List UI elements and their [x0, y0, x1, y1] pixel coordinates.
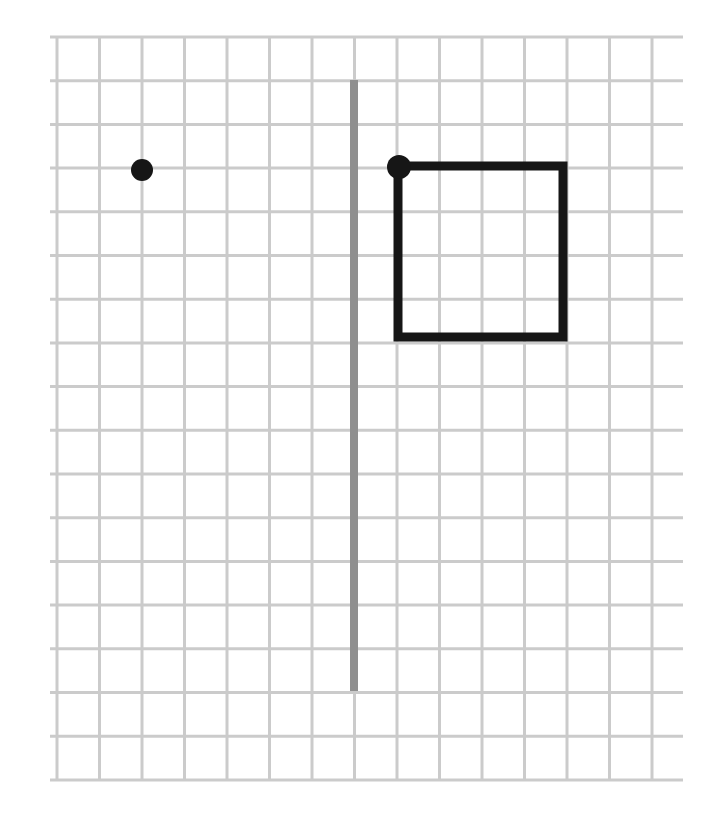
marked-point-left-of-mirror: [131, 159, 153, 181]
worksheet-page: [0, 0, 720, 828]
reflection-grid-figure: [0, 0, 720, 828]
square-top-left-vertex-point: [387, 155, 411, 179]
grid-lines: [50, 37, 683, 780]
